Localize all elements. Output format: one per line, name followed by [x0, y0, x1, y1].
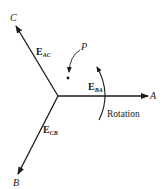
phasor-diagram: C A B EAC EBA ECB P Rotation [0, 0, 164, 189]
axis-label-b: B [13, 177, 19, 188]
rotation-label: Rotation [107, 109, 140, 119]
phasor-label-e-ac: EAC [36, 46, 52, 58]
point-p-leader-arrow [69, 50, 80, 72]
phasor-label-e-ba: EBA [88, 81, 103, 93]
phasor-label-e-cb: ECB [43, 124, 58, 136]
phasor-line-c [16, 26, 58, 96]
point-label-p: P [80, 41, 87, 52]
rotation-arrow [97, 67, 105, 120]
axis-label-c: C [10, 12, 17, 23]
axis-label-a: A [149, 90, 157, 101]
point-p-dot [67, 77, 70, 80]
